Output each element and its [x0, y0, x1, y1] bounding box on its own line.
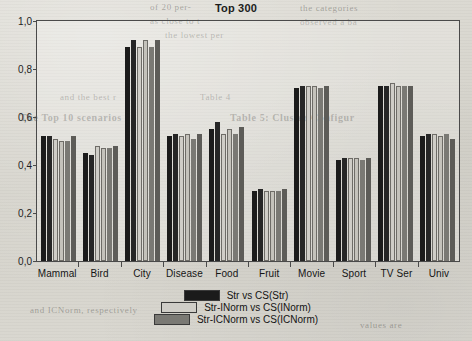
bar — [95, 146, 100, 261]
bar — [438, 136, 443, 261]
x-axis-tick-mark — [78, 262, 79, 267]
bar — [408, 86, 413, 261]
bar — [215, 122, 220, 261]
legend-swatch — [184, 290, 220, 301]
x-axis-label: City — [121, 268, 163, 282]
x-axis-tick-mark — [418, 262, 419, 267]
x-axis-label: TV Ser — [375, 268, 417, 282]
x-axis-label: Fruit — [248, 268, 290, 282]
bar — [354, 158, 359, 261]
x-axis-label: Disease — [163, 268, 205, 282]
bar-group — [290, 21, 332, 261]
legend-item: Str vs CS(Str) — [184, 290, 289, 301]
bar — [107, 148, 112, 261]
bar — [53, 139, 58, 261]
bar — [173, 134, 178, 261]
legend-swatch — [161, 302, 197, 313]
bar — [420, 136, 425, 261]
y-axis-tick-label: 0,8 — [18, 64, 32, 75]
bar — [402, 86, 407, 261]
bar — [143, 40, 148, 261]
bar — [432, 134, 437, 261]
bar — [396, 86, 401, 261]
x-axis-tick-mark — [121, 262, 122, 267]
legend-item: Str-ICNorm vs CS(ICNorm) — [154, 314, 318, 325]
bar — [113, 146, 118, 261]
bar — [59, 141, 64, 261]
bar — [209, 129, 214, 261]
bar — [426, 134, 431, 261]
bar-group — [164, 21, 206, 261]
bar — [137, 47, 142, 261]
x-axis-ticks — [36, 262, 460, 267]
bar — [294, 88, 299, 261]
bar — [149, 47, 154, 261]
y-axis-tick-label: 1,0 — [18, 16, 32, 27]
bar — [131, 40, 136, 261]
bar — [444, 134, 449, 261]
bar — [239, 127, 244, 261]
bar-group — [37, 21, 79, 261]
legend-label: Str-ICNorm vs CS(ICNorm) — [197, 314, 318, 325]
y-axis-tick-label: 0,0 — [18, 256, 32, 267]
bar — [179, 136, 184, 261]
chart-title: Top 300 — [0, 2, 472, 14]
bar — [300, 86, 305, 261]
bar — [390, 83, 395, 261]
bar — [83, 153, 88, 261]
bar — [227, 129, 232, 261]
x-axis-labels: MammalBirdCityDiseaseFoodFruitMovieSport… — [36, 268, 460, 282]
bar — [378, 86, 383, 261]
x-axis-tick-mark — [375, 262, 376, 267]
x-axis-label: Movie — [290, 268, 332, 282]
bar — [258, 189, 263, 261]
bar — [71, 136, 76, 261]
bar — [312, 86, 317, 261]
bar — [89, 155, 94, 261]
bar — [366, 158, 371, 261]
y-axis-tick-label: 0,6 — [18, 112, 32, 123]
legend-swatch — [154, 314, 190, 325]
x-axis-tick-mark — [206, 262, 207, 267]
bar — [450, 139, 455, 261]
plot-area: 0,00,20,40,60,81,0 — [36, 20, 460, 262]
x-axis-label: Bird — [78, 268, 120, 282]
bar-group — [79, 21, 121, 261]
x-axis-label: Food — [206, 268, 248, 282]
bar — [276, 191, 281, 261]
bar — [252, 191, 257, 261]
x-axis-tick-mark — [248, 262, 249, 267]
bar — [65, 141, 70, 261]
bar — [342, 158, 347, 261]
bar — [47, 136, 52, 261]
bar — [360, 160, 365, 261]
x-axis-tick-mark — [333, 262, 334, 267]
chart-legend: Str vs CS(Str)Str-INorm vs CS(INorm)Str-… — [0, 290, 472, 325]
bar-group — [417, 21, 459, 261]
bar — [191, 139, 196, 261]
legend-item: Str-INorm vs CS(INorm) — [161, 302, 311, 313]
x-axis-tick-mark — [163, 262, 164, 267]
bar — [270, 191, 275, 261]
bar — [41, 136, 46, 261]
bar — [101, 148, 106, 261]
bar — [264, 191, 269, 261]
bar — [155, 40, 160, 261]
x-axis-label: Univ — [418, 268, 460, 282]
x-axis-tick-mark — [290, 262, 291, 267]
bar-group — [206, 21, 248, 261]
bar — [384, 86, 389, 261]
bar — [125, 47, 130, 261]
bar-group — [375, 21, 417, 261]
bar — [221, 134, 226, 261]
x-axis-label: Mammal — [36, 268, 78, 282]
bar — [197, 134, 202, 261]
bar-group — [332, 21, 374, 261]
bar — [167, 136, 172, 261]
bar — [233, 134, 238, 261]
bar — [318, 88, 323, 261]
bar — [348, 158, 353, 261]
y-axis-tick-label: 0,4 — [18, 160, 32, 171]
legend-label: Str-INorm vs CS(INorm) — [204, 302, 311, 313]
bar — [185, 134, 190, 261]
